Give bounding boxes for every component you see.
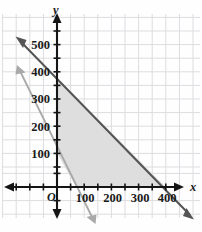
origin-label: O: [47, 190, 56, 204]
y-tick-label: 300: [31, 92, 50, 106]
y-tick-label: 400: [31, 65, 50, 79]
x-tick-label: 100: [76, 191, 95, 205]
x-tick-label: 300: [131, 191, 150, 205]
coordinate-plane-svg: 500 400 300 200 100 100 200 300 400 O y …: [0, 0, 202, 232]
graph-figure: 500 400 300 200 100 100 200 300 400 O y …: [0, 0, 202, 232]
y-axis-label: y: [51, 3, 59, 17]
y-tick-label: 200: [31, 120, 50, 134]
x-tick-label: 400: [158, 191, 177, 205]
x-axis-label: x: [189, 180, 196, 194]
x-tick-labels: 100 200 300 400: [76, 191, 177, 205]
x-tick-label: 200: [103, 191, 122, 205]
y-tick-label: 100: [31, 147, 50, 161]
y-tick-label: 500: [31, 38, 50, 52]
